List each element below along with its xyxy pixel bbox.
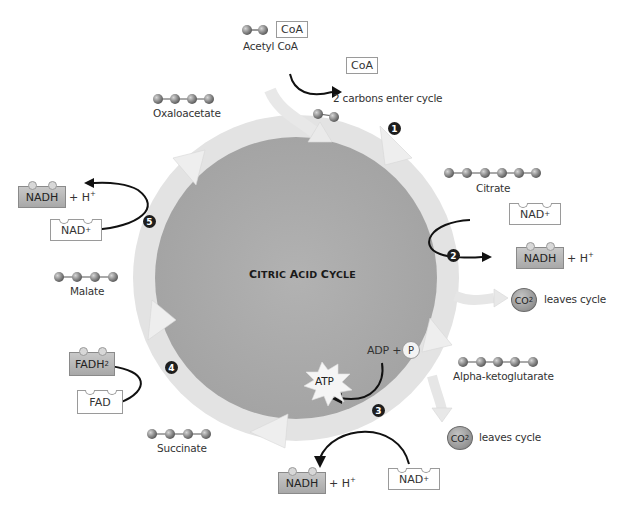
nad-text: NAD xyxy=(520,208,544,221)
step2-nad-plus: NAD+ xyxy=(509,203,561,225)
nadh-text: NADH xyxy=(524,252,557,265)
citrate-label: Citrate xyxy=(476,182,510,194)
malate-label: Malate xyxy=(70,285,104,297)
fadh-text: FADH xyxy=(75,358,105,371)
plus-h-text: + H xyxy=(567,252,588,265)
plus-h-text-3: + H xyxy=(329,477,350,490)
nadh-text-3: NADH xyxy=(286,477,319,490)
step2-nadh: NADH xyxy=(516,247,564,269)
h-sup-3: + xyxy=(350,476,356,484)
h-sup: + xyxy=(588,251,594,259)
succinate-carbons xyxy=(147,429,211,439)
acetyl-coa-label: Acetyl CoA xyxy=(243,40,298,52)
step3-plus-h: + H+ xyxy=(329,476,356,490)
oxaloacetate-carbons xyxy=(153,94,214,104)
nad-text-3: NAD xyxy=(399,473,423,486)
citrate-carbons xyxy=(444,168,541,178)
adp-label: ADP + xyxy=(367,344,401,357)
step5-nadh: NADH xyxy=(18,186,66,208)
p-text: P xyxy=(408,345,414,356)
released-coa-text: CoA xyxy=(351,59,373,72)
carbons-enter-note: 2 carbons enter cycle xyxy=(333,92,442,104)
arrow-coa-release xyxy=(290,74,332,94)
citric-acid-cycle-diagram: CoA Acetyl CoA CoA 2 carbons enter cycle… xyxy=(0,0,624,523)
step-badge-4: 4 xyxy=(165,361,178,374)
plus-text: + xyxy=(392,344,401,357)
step-badge-5: 5 xyxy=(143,215,156,228)
co-text-3: CO xyxy=(451,433,465,444)
step2-plus-h: + H+ xyxy=(567,251,594,265)
step3-nadh: NADH xyxy=(278,472,326,494)
acetyl-coa-tag: CoA xyxy=(276,21,308,38)
title-itric: ITRIC xyxy=(257,269,289,280)
step-badge-2: 2 xyxy=(447,249,460,262)
step2-co2-note: leaves cycle xyxy=(544,293,606,305)
nadh-text-5: NADH xyxy=(26,191,59,204)
malate-carbons xyxy=(54,272,118,282)
step-badge-3: 3 xyxy=(372,404,385,417)
step3-co2-note: leaves cycle xyxy=(479,431,541,443)
step5-nad-plus: NAD+ xyxy=(50,219,102,241)
step3-nad-plus: NAD+ xyxy=(388,468,440,490)
step3-co2: CO2 xyxy=(447,426,473,450)
nad-text-5: NAD xyxy=(61,224,85,237)
coa-text: CoA xyxy=(281,23,303,36)
alpha-ketoglutarate-label: Alpha-ketoglutarate xyxy=(453,370,554,382)
step-badge-1: 1 xyxy=(388,122,401,135)
fadh-sub: 2 xyxy=(105,360,109,368)
co2-sub-3: 2 xyxy=(465,434,469,442)
alpha-ketoglutarate-carbons xyxy=(458,357,538,367)
acetyl-coa-carbons xyxy=(242,25,268,35)
step2-co2: CO2 xyxy=(511,288,537,312)
nad-sup: + xyxy=(544,210,550,218)
nad-sup-3: + xyxy=(423,475,429,483)
fad-text: FAD xyxy=(89,396,110,409)
co2-sub: 2 xyxy=(529,296,533,304)
title-ycle: YCLE xyxy=(329,269,356,280)
title-c2: C xyxy=(321,268,329,281)
released-coa-tag: CoA xyxy=(346,57,378,74)
step5-plus-h: + H+ xyxy=(69,190,96,204)
step4-fadh2: FADH2 xyxy=(69,352,115,376)
step4-fad: FAD xyxy=(77,390,123,414)
succinate-label: Succinate xyxy=(157,442,207,454)
phosphate-circle: P xyxy=(402,341,420,359)
arrow-step5 xyxy=(94,183,148,230)
title-cid: CID xyxy=(298,269,321,280)
oxaloacetate-label: Oxaloacetate xyxy=(153,107,221,119)
nad-sup-5: + xyxy=(85,226,91,234)
h-sup-5: + xyxy=(90,190,96,198)
plus-h-text-5: + H xyxy=(69,191,90,204)
co-text: CO xyxy=(515,295,529,306)
cycle-title: CITRIC ACID CYCLE xyxy=(249,268,356,281)
adp-text: ADP xyxy=(367,344,389,357)
atp-label: ATP xyxy=(315,375,334,387)
